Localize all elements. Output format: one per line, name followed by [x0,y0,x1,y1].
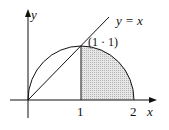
x-axis-label: x [147,105,153,118]
line-label: y = x [116,14,143,27]
y-axis-label: y [31,8,37,21]
shaded-region [81,46,134,100]
point-label: (1 · 1) [88,36,118,48]
diagram: y y = x (1 · 1) 1 2 x [0,0,169,130]
x-axis-arrow-icon [149,97,157,103]
diagram-graphic [0,0,169,130]
tick-label-2: 2 [130,105,137,118]
tick-label-1: 1 [77,105,84,118]
